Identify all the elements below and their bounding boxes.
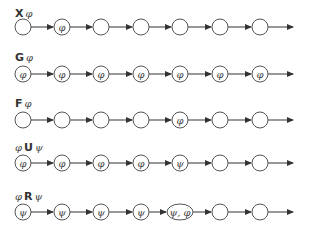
state-node: φ <box>172 66 188 82</box>
state-node: φ <box>172 112 188 128</box>
state-label: φ <box>58 69 65 80</box>
state-label: ψ <box>58 207 66 218</box>
state-node <box>15 19 31 35</box>
formula-label: Gφ <box>15 51 33 64</box>
row-G: Gφφφφφφφφ <box>15 51 293 82</box>
state-node: φ <box>133 155 149 171</box>
state-label: φ <box>97 158 104 169</box>
state-node <box>212 204 228 220</box>
state-label: φ <box>97 69 104 80</box>
state-label: φ <box>58 22 65 33</box>
state-node <box>252 19 268 35</box>
state-node: φ <box>252 66 268 82</box>
state-node <box>212 155 228 171</box>
formula-label: φUψ <box>15 141 43 154</box>
state-node: φ <box>212 66 228 82</box>
state-node <box>133 112 149 128</box>
state-node <box>15 112 31 128</box>
state-label: ψ <box>97 207 105 218</box>
state-label: φ <box>216 69 223 80</box>
row-U: φUψφφφφψ <box>15 141 293 171</box>
state-node: φ <box>15 155 31 171</box>
state-node: φ <box>133 66 149 82</box>
state-label: ψ <box>19 207 27 218</box>
state-node <box>93 19 109 35</box>
row-X: Xφφ <box>15 7 293 35</box>
state-node: φ <box>54 19 70 35</box>
state-node: φ <box>54 66 70 82</box>
state-label: φ <box>137 69 144 80</box>
row-R: φRψψψψψψ, φ <box>15 190 293 220</box>
state-label: φ <box>176 115 183 126</box>
state-node: ψ <box>133 204 149 220</box>
state-node <box>252 112 268 128</box>
state-label: φ <box>19 69 26 80</box>
formula-label: φRψ <box>15 190 43 203</box>
state-label: ψ, φ <box>169 207 190 218</box>
state-node <box>54 112 70 128</box>
state-label: φ <box>176 69 183 80</box>
state-node <box>212 112 228 128</box>
state-node <box>252 204 268 220</box>
state-node: φ <box>93 66 109 82</box>
state-node: ψ <box>54 204 70 220</box>
ltl-diagram: XφφGφφφφφφφφFφφφUψφφφφψφRψψψψψψ, φ <box>0 0 309 231</box>
state-label: ψ <box>137 207 145 218</box>
state-label: ψ <box>176 158 184 169</box>
state-node: ψ, φ <box>167 204 193 220</box>
formula-label: Fφ <box>15 97 32 110</box>
state-node <box>93 112 109 128</box>
state-node: φ <box>15 66 31 82</box>
state-node <box>252 155 268 171</box>
state-node: ψ <box>93 204 109 220</box>
state-node <box>212 19 228 35</box>
state-node: ψ <box>15 204 31 220</box>
state-label: φ <box>256 69 263 80</box>
row-F: Fφφ <box>15 97 293 128</box>
state-label: φ <box>58 158 65 169</box>
formula-label: Xφ <box>15 7 33 20</box>
state-node: φ <box>54 155 70 171</box>
state-node <box>133 19 149 35</box>
state-label: φ <box>19 158 26 169</box>
state-node <box>172 19 188 35</box>
state-node: φ <box>93 155 109 171</box>
state-node: ψ <box>172 155 188 171</box>
state-label: φ <box>137 158 144 169</box>
